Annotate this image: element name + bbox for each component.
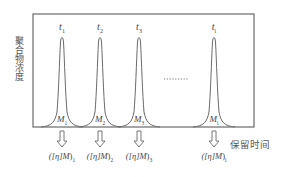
peak-2-result-label: ([η]M)2 (87, 151, 113, 163)
peak-2-mass-label: M2 (95, 114, 105, 126)
peak-3-result-label: ([η]M)3 (126, 151, 152, 163)
y-axis-label: 聚合物浓度 (10, 36, 24, 81)
peak-i-mass-label: Mi (209, 114, 218, 126)
peak-1-result-label: ([η]M)1 (49, 151, 75, 163)
down-arrow-icon (209, 131, 219, 147)
peak-i-result-label: ([η]M)i (201, 151, 226, 163)
peak-2-time-label: t2 (97, 21, 103, 34)
down-arrow-icon (95, 131, 105, 147)
down-arrow-icon (57, 131, 67, 147)
peak-1-time-label: t1 (59, 21, 65, 34)
peak-3-mass-label: M3 (134, 114, 144, 126)
down-arrow-icon (134, 131, 144, 147)
peak-1-mass-label: M1 (57, 114, 67, 126)
peak-3-time-label: t3 (136, 21, 142, 34)
x-axis-label: 保留时间 (230, 137, 270, 151)
peak-i-time-label: ti (212, 21, 216, 34)
